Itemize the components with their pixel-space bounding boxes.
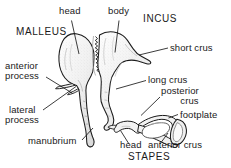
leader-posterior-crus (141, 97, 160, 116)
label-short-crus: short crus (170, 43, 213, 54)
label-incus: INCUS (143, 14, 177, 25)
malleus-bone (56, 34, 95, 147)
label-posterior-crus-line2: crus (161, 96, 218, 107)
label-malleus: MALLEUS (16, 27, 67, 38)
ossicles-diagram: head body INCUS MALLEUS short crus anter… (0, 0, 231, 168)
label-footplate: footplate (180, 110, 217, 121)
leader-lateral-process (43, 87, 76, 111)
label-stapes: STAPES (128, 152, 170, 163)
label-head-malleus: head (59, 6, 81, 17)
label-long-crus: long crus (148, 75, 187, 86)
label-manubrium: manubrium (28, 136, 76, 147)
label-lateral-process-line2: process (5, 115, 39, 126)
lateral-process-shape (68, 89, 80, 95)
label-anterior-process-line2: process (5, 71, 39, 82)
incus-stipple (98, 32, 149, 116)
label-head-stapes: head (120, 140, 142, 151)
label-body: body (108, 6, 129, 17)
label-anterior-crus: anterior crus (148, 140, 202, 151)
stapes-head (114, 121, 141, 133)
leader-long-crus (116, 81, 146, 90)
leader-short-crus (139, 48, 168, 55)
